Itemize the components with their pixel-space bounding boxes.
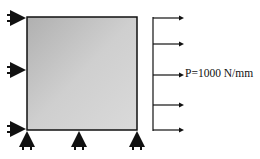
bottom-support-middle xyxy=(71,131,87,150)
diagram-canvas xyxy=(0,0,260,159)
left-support-middle xyxy=(7,62,26,78)
left-support-bottom xyxy=(7,121,26,137)
distributed-load xyxy=(153,16,184,133)
plate xyxy=(27,17,137,130)
left-support-top xyxy=(7,10,26,26)
bottom-support-right xyxy=(129,131,145,150)
bottom-support-left xyxy=(19,131,35,150)
load-label: P=1000 N/mm xyxy=(185,67,253,79)
